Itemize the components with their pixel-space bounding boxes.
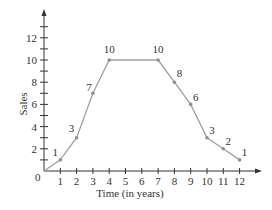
data-marker bbox=[222, 147, 226, 151]
data-point-label: 1 bbox=[53, 146, 59, 158]
data-marker bbox=[173, 80, 177, 84]
x-tick-label: 2 bbox=[74, 175, 80, 187]
data-marker bbox=[238, 158, 242, 162]
data-marker bbox=[205, 136, 209, 140]
data-point-label: 3 bbox=[69, 122, 75, 134]
x-tick-label: 12 bbox=[234, 175, 245, 187]
x-tick-label: 11 bbox=[218, 175, 229, 187]
y-tick-label: 2 bbox=[32, 143, 38, 155]
x-tick-label: 1 bbox=[58, 175, 64, 187]
data-marker bbox=[156, 58, 160, 62]
y-tick-label: 6 bbox=[32, 98, 38, 110]
x-tick-label: 7 bbox=[155, 175, 161, 187]
y-tick-label: 4 bbox=[32, 121, 38, 133]
axes bbox=[42, 9, 263, 174]
x-tick-label: 10 bbox=[202, 175, 214, 187]
data-markers bbox=[59, 58, 242, 162]
x-tick-label: 9 bbox=[188, 175, 194, 187]
x-tick-label: 3 bbox=[90, 175, 96, 187]
x-tick-label: 8 bbox=[172, 175, 178, 187]
data-marker bbox=[107, 58, 111, 62]
tick-labels: 12345678910111224681012 bbox=[26, 32, 245, 187]
data-point-label: 2 bbox=[226, 135, 232, 147]
x-tick-label: 5 bbox=[123, 175, 129, 187]
data-point-label: 10 bbox=[153, 43, 165, 55]
data-point-label: 1 bbox=[242, 146, 248, 158]
sales-line bbox=[44, 60, 240, 171]
data-point-label: 7 bbox=[86, 81, 92, 93]
x-axis-title: Time (in years) bbox=[96, 187, 164, 200]
data-point-label: 10 bbox=[104, 43, 116, 55]
x-tick-label: 6 bbox=[139, 175, 145, 187]
y-tick-label: 10 bbox=[26, 54, 38, 66]
data-marker bbox=[75, 136, 79, 140]
data-point-label: 6 bbox=[193, 91, 199, 103]
y-axis-arrow-icon bbox=[42, 9, 47, 16]
data-marker bbox=[59, 158, 63, 162]
x-axis-arrow-icon bbox=[255, 169, 262, 174]
x-tick-label: 4 bbox=[106, 175, 112, 187]
axis-ticks bbox=[40, 27, 240, 174]
y-tick-label: 12 bbox=[26, 32, 37, 44]
y-tick-label: 8 bbox=[32, 76, 38, 88]
data-point-label: 8 bbox=[177, 67, 183, 79]
origin-label: 0 bbox=[35, 171, 41, 183]
sales-line-chart: 12345678910111224681012 137101086321 Tim… bbox=[0, 0, 272, 210]
data-point-label: 3 bbox=[209, 124, 215, 136]
y-axis-title: Sales bbox=[17, 92, 29, 115]
